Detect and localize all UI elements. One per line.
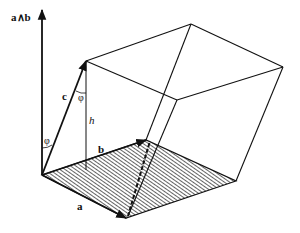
- parallelepiped-diagram: a∧b c φ h φ b a: [0, 0, 300, 233]
- label-b: b: [98, 143, 104, 155]
- edge-ac-to-abc: [177, 67, 283, 100]
- label-c: c: [62, 90, 67, 102]
- label-phi-bottom: φ: [44, 135, 50, 146]
- edge-bc-to-abc: [191, 24, 283, 67]
- label-h: h: [89, 114, 95, 126]
- vector-c: [42, 61, 86, 175]
- label-phi-top: φ: [78, 92, 84, 103]
- edge-ab-to-abc: [236, 67, 283, 181]
- edge-c-to-bc: [86, 24, 191, 61]
- label-a: a: [77, 200, 83, 212]
- label-wedge: a∧b: [11, 11, 31, 23]
- edge-b-to-bc: [146, 24, 191, 140]
